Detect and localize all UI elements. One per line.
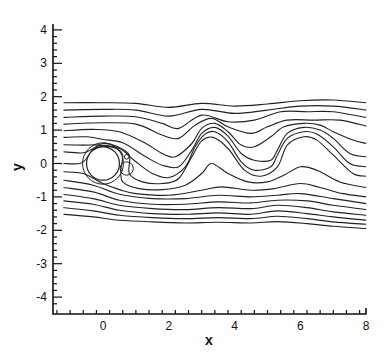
- x-tick-label: 8: [363, 319, 370, 333]
- x-axis-label: x: [205, 332, 213, 348]
- cylinder-body: [87, 147, 120, 180]
- eddy-1: [120, 162, 133, 175]
- streamline-s4: [64, 118, 367, 139]
- x-tick-label: 6: [297, 319, 304, 333]
- streamline-s1: [64, 100, 367, 108]
- y-tick-label: -3: [36, 257, 47, 271]
- y-tick-label: -2: [36, 223, 47, 237]
- y-tick-label: -1: [36, 190, 47, 204]
- y-tick-label: 1: [40, 123, 47, 137]
- x-tick-label: 4: [231, 319, 238, 333]
- y-tick-label: 3: [40, 56, 47, 70]
- y-tick-label: 2: [40, 90, 47, 104]
- y-tick-label: -4: [36, 290, 47, 304]
- y-tick-label: 4: [40, 23, 47, 37]
- y-axis-label: y: [9, 163, 25, 171]
- streamline-chart: 02468 -4-3-2-101234 x y: [0, 0, 386, 356]
- eddy-0: [124, 154, 129, 159]
- x-tick-label: 2: [165, 319, 172, 333]
- cylinder: [83, 143, 134, 184]
- streamline-s16: [64, 214, 367, 228]
- x-tick-label: 0: [100, 319, 107, 333]
- y-tick-label: 0: [40, 157, 47, 171]
- y-axis-ticks: -4-3-2-101234: [36, 23, 62, 304]
